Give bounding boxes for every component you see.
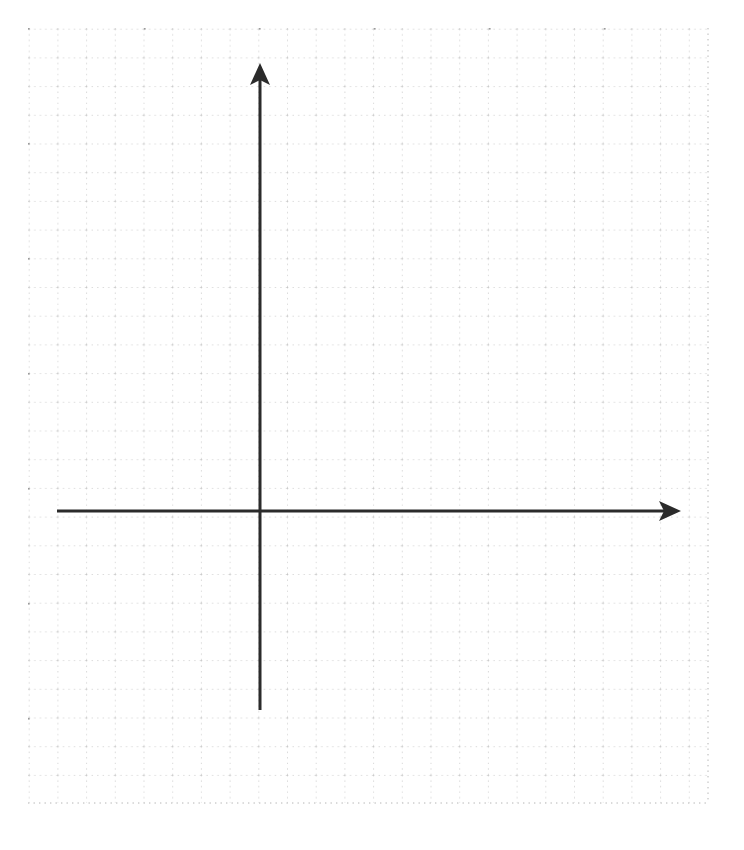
grid-fill-rect [28, 28, 708, 803]
graph-canvas [0, 0, 744, 850]
dotted-graph-paper-background [28, 28, 708, 803]
coordinate-grid-figure [0, 0, 744, 850]
